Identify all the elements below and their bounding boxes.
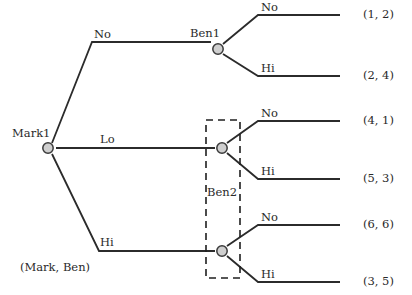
edge-ben1-no <box>223 15 340 44</box>
action-label-ben1-hi: Hi <box>261 63 275 75</box>
action-label-ben2-lower-no: No <box>261 212 278 224</box>
node-ben2-upper[interactable] <box>217 143 227 153</box>
action-label-ben2-lower-hi: Hi <box>261 269 275 281</box>
edge-ben2a-no <box>227 121 340 143</box>
node-ben1[interactable] <box>213 44 223 54</box>
action-label-ben2-upper-no: No <box>261 108 278 120</box>
edge-ben2b-hi <box>227 256 340 282</box>
edge-ben1-hi <box>223 54 340 76</box>
payoff-order-caption: (Mark, Ben) <box>20 262 90 274</box>
payoff-label-2: (2, 4) <box>363 70 394 82</box>
edge-mark1-no <box>52 42 211 143</box>
payoff-label-3: (4, 1) <box>363 115 394 127</box>
edge-mark1-hi <box>52 154 215 251</box>
tree-edges-svg <box>0 0 412 295</box>
node-label-ben1: Ben1 <box>190 28 220 40</box>
action-label-ben1-no: No <box>261 2 278 14</box>
edge-ben2b-no <box>227 225 340 246</box>
payoff-label-5: (6, 6) <box>363 219 394 231</box>
action-label-mark1-no: No <box>94 29 111 41</box>
action-label-ben2-upper-hi: Hi <box>261 166 275 178</box>
payoff-label-1: (1, 2) <box>363 9 394 21</box>
node-label-mark1: Mark1 <box>12 128 50 140</box>
edge-ben2a-hi <box>227 153 340 179</box>
payoff-label-4: (5, 3) <box>363 173 394 185</box>
information-set-label-ben2: Ben2 <box>207 187 237 199</box>
payoff-label-6: (3, 5) <box>363 276 394 288</box>
action-label-mark1-lo: Lo <box>100 134 115 146</box>
game-tree-diagram: Mark1 Ben1 Ben2 No Lo Hi No Hi No Hi No … <box>0 0 412 295</box>
node-mark1[interactable] <box>43 143 53 153</box>
node-ben2-lower[interactable] <box>217 246 227 256</box>
action-label-mark1-hi: Hi <box>100 237 114 249</box>
